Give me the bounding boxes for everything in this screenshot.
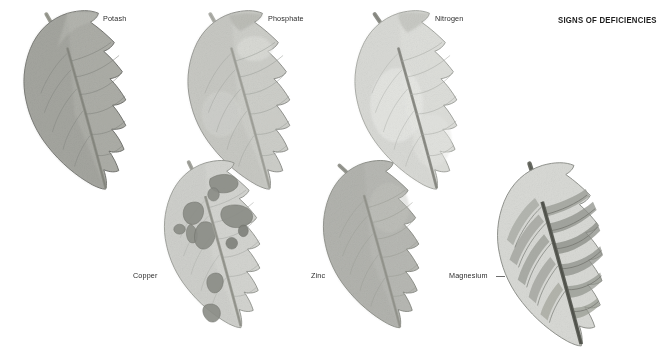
- leaf-label-magnesium: Magnesium: [449, 271, 488, 280]
- leaf-specimen-zinc: [305, 158, 445, 336]
- leaf-label-phosphate: Phosphate: [268, 14, 304, 23]
- page-title: SIGNS OF DEFICIENCIES: [558, 15, 655, 25]
- leader-line-magnesium: [496, 276, 505, 277]
- leaf-label-nitrogen: Nitrogen: [435, 14, 463, 23]
- deficiency-plate: SIGNS OF DEFICIENCIES: [0, 0, 668, 359]
- leaf-label-potash: Potash: [103, 14, 126, 23]
- blade-zinc: [323, 160, 418, 327]
- leaf-label-copper: Copper: [133, 271, 158, 280]
- leaf-specimen-magnesium: [478, 160, 630, 355]
- leaf-label-zinc: Zinc: [311, 271, 325, 280]
- leaf-specimen-copper: [146, 158, 286, 336]
- blade-potash: [24, 11, 126, 190]
- leaf-specimen-potash: [4, 8, 154, 198]
